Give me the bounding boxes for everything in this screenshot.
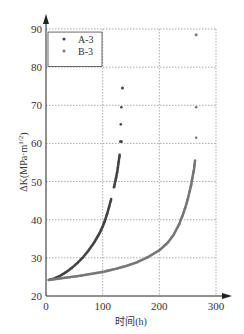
y-tick-label: 60 bbox=[31, 137, 43, 149]
y-tick-label: 30 bbox=[31, 252, 43, 264]
series-B-3 bbox=[48, 33, 198, 281]
data-points bbox=[48, 33, 198, 281]
chart-canvas: 20304050607080900100200300 A-3B-3 时间(h) … bbox=[0, 0, 244, 334]
x-tick-label: 100 bbox=[94, 300, 111, 312]
legend: A-3B-3 bbox=[48, 32, 102, 66]
y-tick-label: 20 bbox=[31, 290, 43, 302]
legend-label: B-3 bbox=[78, 46, 93, 57]
y-axis-label: ΔK(MPa·m1/2) bbox=[17, 132, 30, 191]
legend-marker bbox=[63, 38, 66, 41]
series-A-3 bbox=[48, 87, 124, 282]
grid-lines bbox=[46, 29, 216, 296]
y-tick-label: 90 bbox=[31, 23, 43, 35]
y-tick-label: 80 bbox=[31, 61, 43, 73]
x-tick-label: 0 bbox=[43, 300, 49, 312]
x-tick-label: 200 bbox=[151, 300, 168, 312]
y-tick-label: 70 bbox=[31, 99, 43, 111]
legend-label: A-3 bbox=[78, 34, 94, 45]
legend-marker bbox=[63, 50, 66, 53]
y-tick-label: 40 bbox=[31, 214, 43, 226]
x-tick-label: 300 bbox=[208, 300, 225, 312]
y-tick-label: 50 bbox=[31, 176, 43, 188]
x-axis-label: 时间(h) bbox=[115, 315, 147, 328]
